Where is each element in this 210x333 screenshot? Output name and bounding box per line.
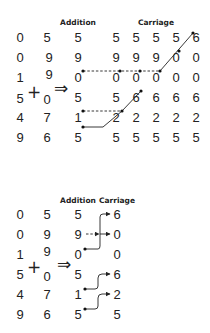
operand-a-digit: 0 (16, 227, 23, 242)
carry-dot (81, 125, 84, 128)
operand-b-digit: 0 (43, 92, 50, 107)
carry-dot (120, 109, 123, 112)
addition-digit: 0 (74, 70, 81, 85)
addition-digit: 0 (74, 247, 81, 262)
bottom-carry-dots (83, 247, 86, 310)
carriage-digit: 2 (192, 110, 199, 125)
carry-dot (139, 89, 142, 92)
carriage-digit: 6 (132, 90, 139, 105)
operand-b-digit: 9 (45, 50, 52, 65)
carriage-digit: 9 (152, 50, 159, 65)
carry-dot (81, 109, 84, 112)
plus-sign: + (27, 257, 41, 277)
carriage-digit: 0 (112, 70, 119, 85)
carriage-digit: 6 (172, 90, 179, 105)
top-diagram: Addition Carriage 0555555609999900190000… (16, 18, 199, 145)
operand-b-digit: 9 (43, 227, 50, 242)
addition-digit: 9 (74, 50, 81, 65)
addition-digit: 5 (74, 307, 81, 322)
addition-header: Addition (60, 196, 96, 205)
carriage-digit: 5 (152, 130, 159, 145)
carry-arrow (85, 294, 110, 309)
operand-b-digit: 7 (43, 110, 50, 125)
carriage-digit: 2 (172, 110, 179, 125)
operand-b-digit: 0 (43, 269, 50, 284)
operand-b-digit: 6 (43, 307, 50, 322)
operand-a-digit: 5 (16, 91, 23, 106)
operand-a-digit: 4 (16, 110, 23, 125)
addition-digit: 5 (74, 207, 81, 222)
carry-arrow (85, 274, 110, 289)
operand-a-digit: 1 (16, 247, 23, 262)
addition-digit: 5 (74, 30, 81, 45)
carriage-digit: 0 (172, 70, 179, 85)
top-digit-grid: 0555555609999900190000005055666647122222… (16, 30, 199, 145)
addition-digit: 5 (74, 130, 81, 145)
operand-a-digit: 0 (16, 50, 23, 65)
carriage-digit: 5 (172, 30, 179, 45)
operand-b-digit: 7 (43, 287, 50, 302)
carry-dot (81, 69, 84, 72)
operand-a-digit: 5 (16, 267, 23, 282)
carriage-digit: 5 (132, 130, 139, 145)
carry-diagram-figure: Addition Carriage 0555555609999900190000… (0, 0, 210, 333)
operand-a-digit: 9 (16, 130, 23, 145)
carriage-digit: 0 (192, 50, 199, 65)
operand-a-digit: 4 (16, 287, 23, 302)
carriage-digit: 6 (152, 90, 159, 105)
operand-a-digit: 9 (16, 307, 23, 322)
carriage-digit: 5 (112, 30, 119, 45)
carriage-digit: 0 (192, 70, 199, 85)
operand-b-digit: 9 (43, 244, 50, 259)
carriage-header: Carriage (99, 196, 135, 205)
bottom-diagram: Addition Carriage 0556099019005056471296… (16, 196, 135, 322)
carry-dot (158, 69, 161, 72)
operand-a-digit: 0 (16, 207, 23, 222)
carriage-digit: 9 (132, 50, 139, 65)
carriage-header: Carriage (138, 18, 174, 27)
implies-arrow-icon: ⇒ (57, 254, 71, 274)
carry-dot (177, 49, 180, 52)
carry-arrow (85, 214, 110, 249)
operand-b-digit: 5 (43, 30, 50, 45)
carriage-digit: 2 (132, 110, 139, 125)
addition-digit: 5 (74, 267, 81, 282)
addition-header: Addition (60, 18, 96, 27)
addition-digit: 1 (74, 287, 81, 302)
carry-dot (138, 69, 141, 72)
carriage-digit: 5 (113, 307, 120, 322)
carriage-digit: 5 (152, 30, 159, 45)
carriage-digit: 5 (192, 130, 199, 145)
carriage-digit: 0 (113, 247, 120, 262)
operand-b-digit: 6 (43, 130, 50, 145)
carriage-digit: 0 (113, 227, 120, 242)
operand-a-digit: 0 (16, 30, 23, 45)
carriage-digit: 6 (192, 90, 199, 105)
carriage-digit: 5 (172, 130, 179, 145)
carry-dot (83, 307, 86, 310)
bottom-carry-lines (85, 214, 110, 309)
carry-dot (83, 247, 86, 250)
carriage-digit: 0 (152, 70, 159, 85)
carriage-digit: 2 (112, 110, 119, 125)
plus-sign: + (27, 82, 41, 102)
operand-b-digit: 5 (43, 207, 50, 222)
operand-b-digit: 9 (45, 67, 52, 82)
carriage-digit: 6 (113, 267, 120, 282)
carriage-digit: 6 (113, 207, 120, 222)
carry-dot (191, 31, 194, 34)
carriage-digit: 5 (112, 130, 119, 145)
carry-dot (118, 69, 121, 72)
addition-digit: 9 (74, 227, 81, 242)
carriage-digit: 9 (112, 50, 119, 65)
carry-dot (83, 287, 86, 290)
addition-digit: 1 (74, 110, 81, 125)
carriage-digit: 5 (112, 90, 119, 105)
implies-arrow-icon: ⇒ (54, 78, 68, 98)
carriage-digit: 2 (113, 287, 120, 302)
carriage-digit: 5 (132, 30, 139, 45)
operand-a-digit: 1 (16, 70, 23, 85)
carriage-digit: 2 (152, 110, 159, 125)
carriage-digit: 0 (132, 70, 139, 85)
addition-digit: 5 (74, 90, 81, 105)
